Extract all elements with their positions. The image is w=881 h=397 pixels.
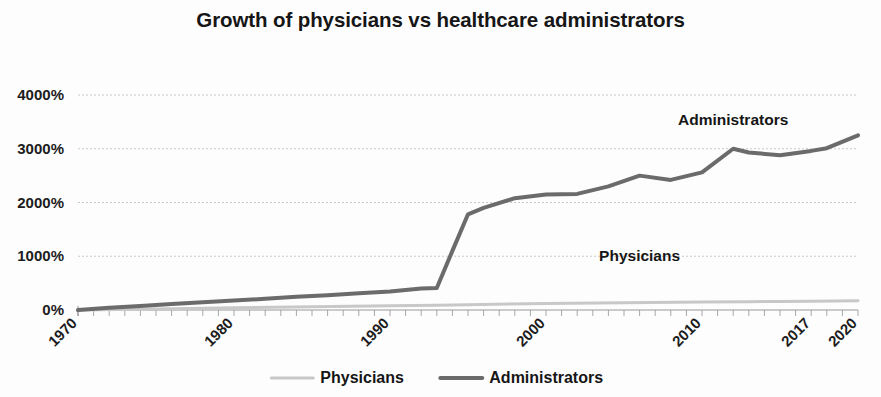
series-line-administrators xyxy=(78,135,858,310)
chart-legend: PhysiciansAdministrators xyxy=(271,369,603,386)
x-axis-tick-labels: 1970198019902000201020172020 xyxy=(45,314,861,350)
x-axis-tick-label: 2017 xyxy=(778,314,814,350)
x-axis-tick-label: 1990 xyxy=(357,314,393,350)
series-annotations: AdministratorsPhysicians xyxy=(599,111,788,264)
y-axis-tick-label: 1000% xyxy=(17,247,64,264)
annotation-physicians: Physicians xyxy=(599,247,680,264)
data-series xyxy=(78,135,858,310)
y-axis-tick-label: 4000% xyxy=(17,86,64,103)
x-axis-tick-label: 2010 xyxy=(669,314,705,350)
x-axis-tick-label: 1980 xyxy=(201,314,237,350)
y-axis-tick-label: 2000% xyxy=(17,194,64,211)
y-axis-tick-labels: 0%1000%2000%3000%4000% xyxy=(17,86,64,318)
y-axis-tick-label: 0% xyxy=(42,301,64,318)
annotation-administrators: Administrators xyxy=(678,111,788,128)
x-axis-tick-label: 2020 xyxy=(825,314,861,350)
x-axis-tick-label: 2000 xyxy=(513,314,549,350)
x-axis-tick-label: 1970 xyxy=(45,314,81,350)
legend-label-administrators: Administrators xyxy=(489,369,603,386)
legend-label-physicians: Physicians xyxy=(320,369,404,386)
y-axis-tick-label: 3000% xyxy=(17,140,64,157)
chart-plot: 0%1000%2000%3000%4000% 19701980199020002… xyxy=(0,0,881,397)
chart-container: Growth of physicians vs healthcare admin… xyxy=(0,0,881,397)
x-axis-minor-ticks xyxy=(78,310,858,316)
